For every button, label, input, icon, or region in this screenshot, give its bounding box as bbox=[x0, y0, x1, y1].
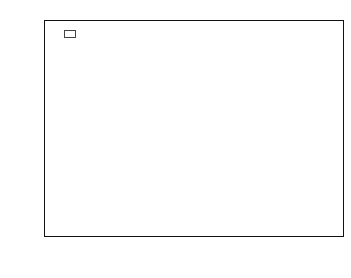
chart-figure bbox=[0, 0, 351, 278]
chart-legend bbox=[64, 30, 76, 38]
y-axis-tick-labels bbox=[0, 0, 44, 278]
plot-area bbox=[44, 20, 344, 237]
